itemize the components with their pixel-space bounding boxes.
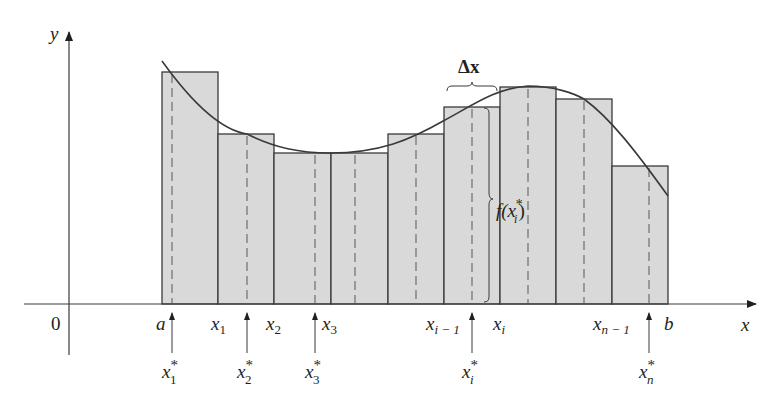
sample-point-arrows bbox=[172, 313, 649, 353]
delta-x-brace bbox=[447, 82, 497, 91]
xn-star-label: x*n bbox=[638, 357, 655, 387]
riemann-sum-diagram: y x 0 a b Δx f(x*i) x1 x2 x3 xi − 1 xi x… bbox=[0, 0, 775, 413]
origin-label: 0 bbox=[51, 313, 61, 334]
y-axis-label: y bbox=[48, 23, 59, 44]
rectangle-3 bbox=[274, 153, 331, 304]
rectangle-9 bbox=[612, 166, 668, 304]
x-i-label: xi bbox=[492, 313, 505, 337]
x-axis-label: x bbox=[740, 314, 750, 335]
xi-star-label: x*i bbox=[461, 357, 478, 387]
x-n-minus-1-label: xn − 1 bbox=[592, 313, 630, 337]
b-label: b bbox=[664, 313, 674, 334]
x2-star-label: x*2 bbox=[236, 357, 253, 387]
x1-star-label: x*1 bbox=[161, 357, 178, 387]
rectangle-1 bbox=[162, 72, 218, 304]
rectangles bbox=[162, 72, 668, 304]
a-label: a bbox=[156, 313, 166, 334]
x-i-minus-1-label: xi − 1 bbox=[425, 313, 460, 337]
x2-label: x2 bbox=[265, 313, 281, 337]
x3-star-label: x*3 bbox=[304, 357, 321, 387]
delta-x-label: Δx bbox=[458, 56, 480, 77]
rectangle-4 bbox=[331, 153, 388, 304]
rectangle-6-ith bbox=[444, 107, 500, 304]
x3-label: x3 bbox=[321, 313, 337, 337]
rectangle-2 bbox=[218, 134, 274, 304]
x1-label: x1 bbox=[210, 313, 226, 337]
